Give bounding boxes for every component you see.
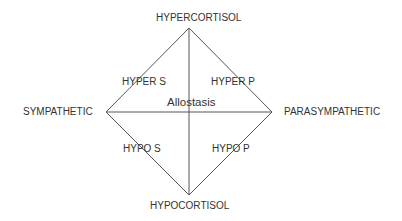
label-top-hypercortisol: HYPERCORTISOL (156, 13, 241, 23)
label-bottom-hypocortisol: HYPOCORTISOL (150, 201, 229, 211)
label-hypo-p: HYPO P (212, 144, 250, 154)
label-hyper-p: HYPER P (211, 77, 255, 87)
allostasis-diamond-diagram: HYPERCORTISOL HYPOCORTISOL SYMPATHETIC P… (0, 0, 402, 221)
label-left-sympathetic: SYMPATHETIC (23, 107, 93, 117)
label-right-parasympathetic: PARASYMPATHETIC (284, 107, 380, 117)
label-hyper-s: HYPER S (122, 77, 166, 87)
label-hypo-s: HYPO S (123, 144, 161, 154)
label-allostasis: Allostasis (167, 97, 216, 109)
